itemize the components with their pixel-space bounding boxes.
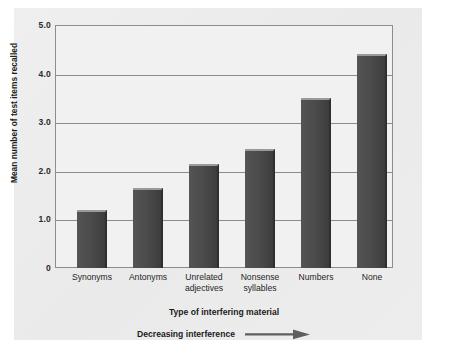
y-tick-label-5: 5.0 (39, 20, 51, 30)
bar-antonyms (133, 188, 163, 268)
right-arrow-icon (245, 329, 311, 340)
y-axis-title: Mean number of test items recalled (9, 38, 19, 188)
bar-series (55, 25, 393, 268)
y-tick-label-0: 0 (46, 263, 51, 273)
figure: Mean number of test items recalled 0 1.0… (0, 0, 449, 359)
y-tick-label-3: 3.0 (39, 117, 51, 127)
direction-annotation: Decreasing interference (55, 327, 393, 341)
x-tick-label-nonsense-syllables-line2: syllables (223, 283, 297, 294)
bar-numbers (301, 98, 331, 268)
bar-unrelated-adjectives (189, 164, 219, 269)
bar-none (357, 54, 387, 268)
y-axis-ticks: 0 1.0 2.0 3.0 4.0 5.0 (30, 25, 51, 268)
y-tick-label-1: 1.0 (39, 214, 51, 224)
y-tick-label-2: 2.0 (39, 166, 51, 176)
bar-nonsense-syllables (245, 149, 275, 268)
x-tick-label-none: None (335, 272, 409, 283)
x-axis-title: Type of interfering material (55, 307, 393, 317)
x-axis-tick-labels: Synonyms Antonyms Unrelated adjectives N… (55, 272, 393, 304)
x-tick-label-none-line1: None (335, 272, 409, 283)
direction-annotation-label: Decreasing interference (137, 329, 235, 339)
y-tick-label-4: 4.0 (39, 69, 51, 79)
bar-synonyms (77, 210, 107, 268)
